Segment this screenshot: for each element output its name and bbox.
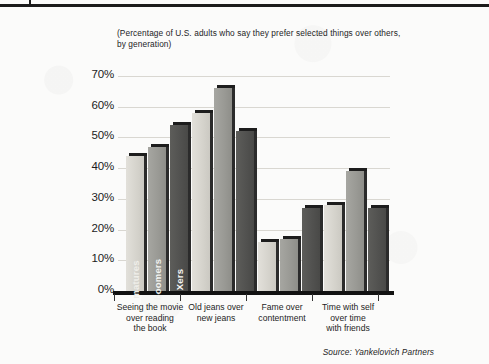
category-label-line: new jeans bbox=[181, 313, 251, 324]
category-label-line: Time with self bbox=[313, 302, 383, 313]
bar-face bbox=[170, 125, 188, 291]
bar-top-shadow bbox=[349, 168, 367, 171]
bar-face bbox=[236, 131, 254, 291]
bar-top-shadow bbox=[173, 122, 191, 125]
bar-top-shadow bbox=[261, 239, 279, 242]
top-rule bbox=[0, 4, 489, 7]
bar-face bbox=[192, 113, 210, 291]
category-label-line: Fame over bbox=[247, 302, 317, 313]
bar-face bbox=[302, 208, 320, 291]
category-label: Seeing the movieover readingthe book bbox=[115, 302, 185, 334]
bar-side-shadow bbox=[342, 205, 345, 291]
bar-side-shadow bbox=[254, 131, 257, 291]
category-tick bbox=[378, 294, 379, 301]
bar-top-shadow bbox=[371, 205, 389, 208]
bar-boomers[interactable] bbox=[214, 88, 232, 291]
category-label: Time with selfover timewith friends bbox=[313, 302, 383, 334]
bar-side-shadow bbox=[188, 125, 191, 291]
bar-top-shadow bbox=[327, 202, 345, 205]
category-label-line: Seeing the movie bbox=[115, 302, 185, 313]
chart-figure: (Percentage of U.S. adults who say they … bbox=[0, 14, 489, 364]
bar-top-shadow bbox=[305, 205, 323, 208]
category-label-line: over time bbox=[313, 313, 383, 324]
bar-group bbox=[324, 76, 386, 291]
category-label: Old jeans overnew jeans bbox=[181, 302, 251, 323]
y-axis-tick-label: 70% bbox=[74, 68, 114, 80]
category-tick bbox=[246, 294, 247, 301]
chart-subtitle: (Percentage of U.S. adults who say they … bbox=[117, 28, 407, 50]
y-axis-tick-label: 40% bbox=[74, 160, 114, 172]
bar-top-shadow bbox=[239, 128, 257, 131]
bar-side-shadow bbox=[210, 113, 213, 291]
bar-boomers[interactable] bbox=[346, 171, 364, 291]
y-axis: 70%60%50%40%30%20%10%0% bbox=[70, 76, 114, 291]
bar-matures[interactable]: matures bbox=[126, 156, 144, 291]
category-label-line: with friends bbox=[313, 323, 383, 334]
category-tick bbox=[180, 294, 181, 301]
category-label-line: over reading bbox=[115, 313, 185, 324]
bar-side-shadow bbox=[298, 239, 301, 291]
y-axis-tick-label: 30% bbox=[74, 191, 114, 203]
bar-group bbox=[192, 76, 254, 291]
category-label-line: Old jeans over bbox=[181, 302, 251, 313]
top-tick-mark bbox=[29, 0, 31, 5]
bar-side-shadow bbox=[232, 88, 235, 291]
y-axis-tick-label: 50% bbox=[74, 129, 114, 141]
y-axis-tick-label: 60% bbox=[74, 99, 114, 111]
bar-face bbox=[258, 242, 276, 291]
bar-face bbox=[280, 239, 298, 291]
y-axis-tick-label: 20% bbox=[74, 222, 114, 234]
bar-matures[interactable] bbox=[324, 205, 342, 291]
category-tick bbox=[114, 294, 115, 301]
y-axis-tick-label: 10% bbox=[74, 252, 114, 264]
bar-xers[interactable] bbox=[236, 131, 254, 291]
bar-xers[interactable] bbox=[302, 208, 320, 291]
bar-top-shadow bbox=[129, 153, 147, 156]
bar-xers[interactable]: Xers bbox=[170, 125, 188, 291]
bar-side-shadow bbox=[144, 156, 147, 291]
source-note: Source: Yankelovich Partners bbox=[323, 347, 434, 357]
series-label-boomers: boomers bbox=[152, 259, 163, 301]
bar-boomers[interactable] bbox=[280, 239, 298, 291]
bar-face bbox=[346, 171, 364, 291]
y-axis-tick-label: 0% bbox=[74, 283, 114, 295]
bar-top-shadow bbox=[195, 110, 213, 113]
category-tick bbox=[312, 294, 313, 301]
category-label-line: contentment bbox=[247, 313, 317, 324]
bar-face bbox=[214, 88, 232, 291]
bar-group bbox=[258, 76, 320, 291]
series-label-matures: matures bbox=[130, 260, 141, 298]
bar-face bbox=[324, 205, 342, 291]
bar-matures[interactable] bbox=[192, 113, 210, 291]
bar-matures[interactable] bbox=[258, 242, 276, 291]
bar-top-shadow bbox=[283, 236, 301, 239]
series-label-xers: Xers bbox=[174, 269, 185, 290]
bar-side-shadow bbox=[166, 147, 169, 291]
bar-face bbox=[368, 208, 386, 291]
bar-top-shadow bbox=[217, 85, 235, 88]
bar-side-shadow bbox=[320, 208, 323, 291]
bar-boomers[interactable]: boomers bbox=[148, 147, 166, 291]
bar-groups: maturesboomersXers bbox=[118, 76, 390, 291]
category-label-line: the book bbox=[115, 323, 185, 334]
bar-side-shadow bbox=[386, 208, 389, 291]
category-label: Fame overcontentment bbox=[247, 302, 317, 323]
bar-group: maturesboomersXers bbox=[126, 76, 188, 291]
bar-side-shadow bbox=[276, 242, 279, 291]
bar-side-shadow bbox=[364, 171, 367, 291]
bar-top-shadow bbox=[151, 144, 169, 147]
bar-xers[interactable] bbox=[368, 208, 386, 291]
